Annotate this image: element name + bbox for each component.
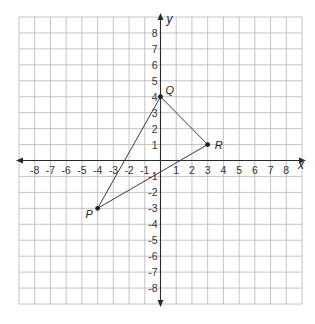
y-tick-label: -7 xyxy=(148,266,157,278)
y-tick-label: 6 xyxy=(152,59,158,71)
tick-labels: -8-7-6-5-4-3-2-11234567887654321-1-2-3-4… xyxy=(30,12,305,294)
axes xyxy=(16,13,306,307)
x-tick-label: -8 xyxy=(30,164,39,176)
y-axis-label: y xyxy=(166,12,174,26)
y-tick-label: -3 xyxy=(148,202,157,214)
x-tick-label: 3 xyxy=(205,164,211,176)
y-tick-label: 2 xyxy=(152,123,158,135)
point-p xyxy=(95,206,100,211)
x-tick-label: -5 xyxy=(77,164,86,176)
x-tick-label: -6 xyxy=(61,164,70,176)
point-label-p: P xyxy=(86,208,94,220)
x-tick-label: -7 xyxy=(46,164,55,176)
point-r xyxy=(205,142,210,147)
x-axis-left-arrow-icon xyxy=(16,158,23,164)
y-tick-label: -4 xyxy=(148,218,157,230)
y-tick-label: 4 xyxy=(152,91,158,103)
y-tick-label: 3 xyxy=(152,107,158,119)
x-tick-label: 4 xyxy=(220,164,226,176)
y-tick-label: -5 xyxy=(148,234,157,246)
y-tick-label: 7 xyxy=(152,43,158,55)
x-axis-label: x xyxy=(297,158,305,172)
point-label-r: R xyxy=(215,139,223,151)
x-tick-label: -2 xyxy=(124,164,133,176)
coordinate-plane: -8-7-6-5-4-3-2-11234567887654321-1-2-3-4… xyxy=(0,0,315,324)
x-tick-label: 2 xyxy=(189,164,195,176)
x-tick-label: 1 xyxy=(173,164,179,176)
y-axis-bottom-arrow-icon xyxy=(158,300,164,307)
y-tick-label: -6 xyxy=(148,250,157,262)
y-axis-top-arrow-icon xyxy=(158,13,164,20)
y-tick-label: -8 xyxy=(148,282,157,294)
x-tick-label: 8 xyxy=(283,164,289,176)
x-tick-label: 5 xyxy=(236,164,242,176)
x-tick-label: -4 xyxy=(93,164,102,176)
segment-qr xyxy=(161,97,208,145)
x-tick-label: 7 xyxy=(268,164,274,176)
points: QRP xyxy=(86,84,223,221)
point-label-q: Q xyxy=(166,84,175,96)
y-tick-label: -2 xyxy=(148,186,157,198)
y-tick-label: 8 xyxy=(152,27,158,39)
point-q xyxy=(158,94,163,99)
y-tick-label: 5 xyxy=(152,75,158,87)
y-tick-label: 1 xyxy=(152,139,158,151)
x-tick-label: 6 xyxy=(252,164,258,176)
